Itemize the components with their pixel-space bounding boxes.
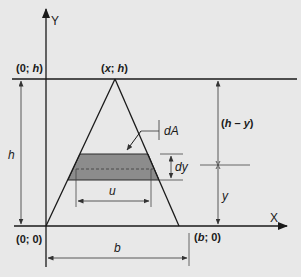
dA-label: dA — [164, 124, 179, 138]
diagram-canvas: Y X (0; h) (x; h) (0; 0) (b; 0) h (h – y… — [0, 0, 301, 277]
h-dimension-label: h — [8, 148, 15, 162]
triangle-diagram: Y X (0; h) (x; h) (0; 0) (b; 0) h (h – y… — [0, 0, 301, 277]
point-base-right-label: (b; 0) — [194, 231, 221, 243]
x-axis-label: X — [270, 211, 278, 225]
triangle-left-side — [46, 79, 115, 226]
h-minus-y-label: (h – y) — [221, 117, 254, 129]
triangle-right-side — [115, 79, 179, 226]
dy-label: dy — [175, 160, 189, 174]
y-axis-label: Y — [51, 14, 59, 28]
u-label: u — [109, 184, 116, 198]
strip-dA — [68, 154, 159, 180]
dA-leader-arrow — [127, 131, 141, 150]
point-apex-label: (x; h) — [101, 62, 128, 74]
point-origin-label: (0; 0) — [16, 233, 43, 245]
b-label: b — [114, 241, 121, 255]
point-top-left-label: (0; h) — [16, 62, 43, 74]
y-dimension-label: y — [221, 189, 229, 203]
